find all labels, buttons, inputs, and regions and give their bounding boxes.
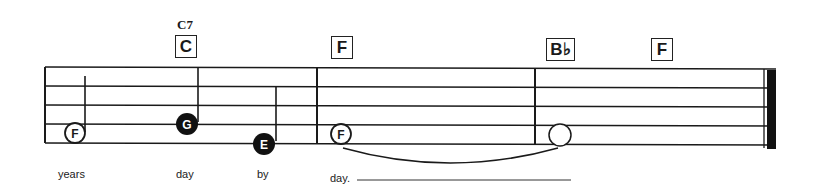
lyric-years: years <box>58 168 85 180</box>
note-e: E <box>253 133 275 155</box>
lyric-day-end: day. <box>330 172 350 184</box>
lyric-day: day <box>176 168 194 180</box>
note-g: G <box>176 113 198 135</box>
chord-box-f-2: F <box>651 38 673 61</box>
note-tied-whole <box>549 124 571 146</box>
note-letter: F <box>71 127 78 141</box>
note-letter: E <box>260 138 268 152</box>
final-thick-barline <box>767 70 776 149</box>
staff-lines <box>45 67 776 145</box>
note-letter: G <box>182 118 191 132</box>
lyric-by: by <box>257 168 269 180</box>
tie-curve <box>343 148 558 163</box>
barlines <box>45 67 764 148</box>
chord-above-c7: C7 <box>177 17 193 33</box>
music-staff: F G E F <box>0 0 817 194</box>
chord-box-c: C <box>175 35 197 58</box>
note-f-1: F <box>65 123 85 143</box>
chord-box-bflat: B♭ <box>546 38 575 61</box>
note-letter: F <box>337 128 344 142</box>
chord-box-f-1: F <box>331 36 353 59</box>
note-f-2: F <box>331 124 351 144</box>
